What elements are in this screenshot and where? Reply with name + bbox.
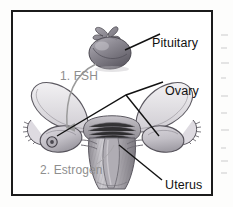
page-artifact [221, 47, 227, 49]
page-artifact [221, 95, 228, 97]
page-artifact [221, 112, 227, 114]
page-artifact [221, 147, 226, 149]
page-artifact [221, 160, 228, 162]
page-artifact [221, 172, 227, 174]
label-fsh: 1. FSH [60, 70, 98, 82]
label-ovary: Ovary [165, 85, 199, 98]
figure-page: Pituitary Ovary Uterus 1. FSH 2. Estroge… [0, 0, 233, 207]
page-artifact [221, 34, 228, 36]
page-artifact [221, 77, 226, 79]
page-artifact [221, 62, 229, 64]
page-artifact [221, 129, 229, 131]
figure-frame: Pituitary Ovary Uterus 1. FSH 2. Estroge… [11, 10, 213, 196]
oocyte [50, 140, 54, 144]
uterus-graphic [83, 116, 140, 189]
label-estrogen: 2. Estrogen [40, 164, 102, 176]
pituitary-gland-graphic [89, 27, 131, 72]
label-uterus: Uterus [165, 179, 202, 192]
label-pituitary: Pituitary [152, 37, 198, 50]
